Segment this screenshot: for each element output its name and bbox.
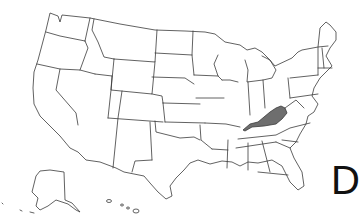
us-outline <box>33 13 336 199</box>
aleutian-islands <box>2 203 34 213</box>
alaska <box>32 170 80 212</box>
figure-label: D <box>331 160 360 200</box>
hawaii <box>107 200 140 214</box>
